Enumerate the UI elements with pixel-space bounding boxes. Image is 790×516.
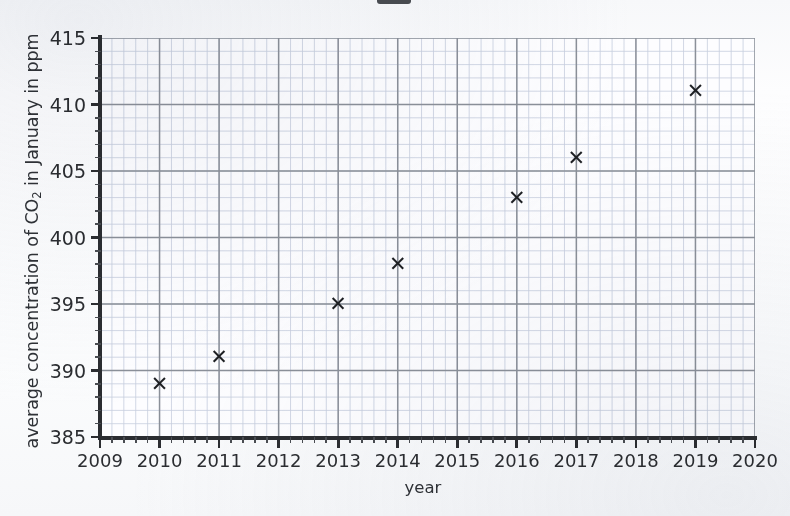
x-minor-tick: [254, 437, 256, 443]
y-minor-tick: [95, 263, 101, 265]
x-minor-tick: [707, 437, 709, 443]
x-minor-tick: [206, 437, 208, 443]
x-minor-tick: [528, 437, 530, 443]
x-minor-tick: [587, 437, 589, 443]
x-minor-tick: [445, 437, 447, 443]
chart-page: average concentration of CO2 in January …: [0, 0, 790, 516]
y-minor-tick: [95, 117, 101, 119]
grid-lines: [100, 38, 755, 437]
y-minor-tick: [95, 51, 101, 53]
x-minor-tick: [123, 437, 125, 443]
x-minor-tick: [325, 437, 327, 443]
x-minor-tick: [599, 437, 601, 443]
plot-area: ✕✕✕✕✕✕✕: [100, 38, 755, 437]
x-minor-tick: [433, 437, 435, 443]
y-tick-390: [91, 369, 102, 372]
y-minor-tick: [95, 330, 101, 332]
y-minor-tick: [95, 90, 101, 92]
x-minor-tick: [611, 437, 613, 443]
x-tick-2011: [218, 437, 221, 448]
x-minor-tick: [171, 437, 173, 443]
y-tick-label-405: 405: [0, 160, 86, 182]
y-minor-tick: [95, 423, 101, 425]
x-minor-tick: [671, 437, 673, 443]
x-tick-2020: [754, 437, 757, 448]
y-minor-tick: [95, 290, 101, 292]
x-tick-2019: [694, 437, 697, 448]
data-point-2013: ✕: [329, 294, 347, 315]
x-minor-tick: [183, 437, 185, 443]
y-minor-tick: [95, 250, 101, 252]
x-minor-tick: [730, 437, 732, 443]
x-minor-tick: [147, 437, 149, 443]
y-minor-tick: [95, 197, 101, 199]
y-minor-tick: [95, 277, 101, 279]
x-minor-tick: [266, 437, 268, 443]
x-tick-2009: [99, 437, 102, 448]
y-minor-tick: [95, 383, 101, 385]
y-tick-405: [91, 170, 102, 173]
x-tick-2018: [635, 437, 638, 448]
x-tick-2014: [396, 437, 399, 448]
y-minor-tick: [95, 210, 101, 212]
x-minor-tick: [659, 437, 661, 443]
x-minor-tick: [314, 437, 316, 443]
x-minor-tick: [373, 437, 375, 443]
x-minor-tick: [349, 437, 351, 443]
x-minor-tick: [647, 437, 649, 443]
y-tick-label-415: 415: [0, 27, 86, 49]
data-point-2017: ✕: [568, 147, 586, 168]
x-tick-label-2020: 2020: [715, 450, 790, 471]
y-minor-tick: [95, 343, 101, 345]
x-minor-tick: [540, 437, 542, 443]
x-minor-tick: [552, 437, 554, 443]
y-axis-title-subscript: 2: [30, 192, 44, 199]
y-tick-410: [91, 103, 102, 106]
x-minor-tick: [194, 437, 196, 443]
y-minor-tick: [95, 157, 101, 159]
x-tick-2010: [158, 437, 161, 448]
x-minor-tick: [718, 437, 720, 443]
y-tick-400: [91, 236, 102, 239]
y-tick-label-410: 410: [0, 94, 86, 116]
x-minor-tick: [468, 437, 470, 443]
x-tick-2012: [277, 437, 280, 448]
x-minor-tick: [623, 437, 625, 443]
x-tick-2016: [515, 437, 518, 448]
x-minor-tick: [409, 437, 411, 443]
y-minor-tick: [95, 396, 101, 398]
y-minor-tick: [95, 77, 101, 79]
x-minor-tick: [361, 437, 363, 443]
x-minor-tick: [421, 437, 423, 443]
y-tick-label-395: 395: [0, 293, 86, 315]
y-minor-tick: [95, 223, 101, 225]
cropped-title-sliver: [377, 0, 411, 4]
data-point-2014: ✕: [389, 254, 407, 275]
data-point-2010: ✕: [151, 373, 169, 394]
x-tick-2015: [456, 437, 459, 448]
x-tick-2017: [575, 437, 578, 448]
x-minor-tick: [302, 437, 304, 443]
x-minor-tick: [230, 437, 232, 443]
y-minor-tick: [95, 317, 101, 319]
x-tick-2013: [337, 437, 340, 448]
x-axis-title: year: [0, 478, 790, 497]
x-minor-tick: [480, 437, 482, 443]
y-minor-tick: [95, 130, 101, 132]
y-tick-label-390: 390: [0, 360, 86, 382]
x-minor-tick: [492, 437, 494, 443]
x-minor-tick: [504, 437, 506, 443]
x-minor-tick: [135, 437, 137, 443]
y-tick-395: [91, 303, 102, 306]
x-minor-tick: [290, 437, 292, 443]
y-tick-label-400: 400: [0, 227, 86, 249]
data-point-2011: ✕: [210, 347, 228, 368]
y-minor-tick: [95, 64, 101, 66]
data-point-2016: ✕: [508, 187, 526, 208]
y-minor-tick: [95, 356, 101, 358]
x-minor-tick: [242, 437, 244, 443]
y-tick-415: [91, 37, 102, 40]
x-minor-tick: [683, 437, 685, 443]
x-axis-title-text: year: [405, 478, 442, 497]
y-minor-tick: [95, 410, 101, 412]
